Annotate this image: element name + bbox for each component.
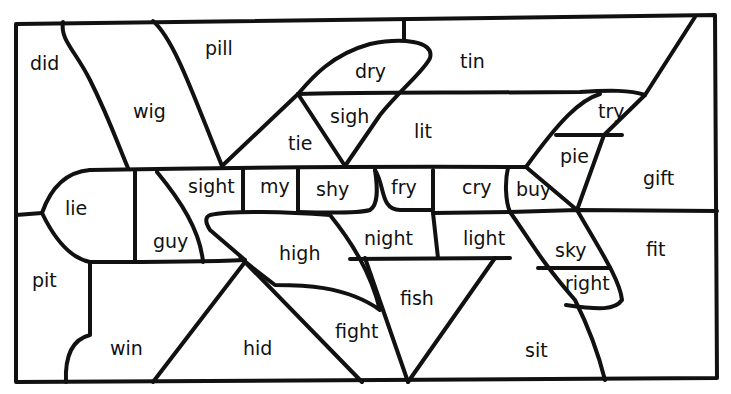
label-pill: pill (205, 37, 233, 59)
label-my: my (260, 175, 290, 197)
label-sigh: sigh (330, 105, 369, 127)
label-shy: shy (316, 178, 349, 200)
label-hid: hid (243, 337, 272, 359)
label-lit: lit (414, 120, 432, 142)
puzzle-canvas: did wig pill dry tin sigh tie lit try pi… (0, 0, 731, 394)
label-gift: gift (643, 167, 674, 189)
label-fight: fight (335, 320, 379, 342)
label-lie: lie (65, 197, 87, 219)
label-guy: guy (153, 230, 188, 252)
label-right: right (565, 272, 610, 294)
label-pit: pit (32, 269, 57, 291)
label-cry: cry (462, 176, 492, 198)
label-try: try (598, 100, 625, 122)
label-tin: tin (460, 50, 485, 72)
label-sight: sight (188, 175, 235, 197)
label-win: win (110, 337, 143, 359)
label-night: night (364, 227, 413, 249)
label-tie: tie (288, 132, 312, 154)
label-did: did (30, 52, 59, 74)
label-pie: pie (560, 145, 589, 167)
label-fish: fish (400, 287, 434, 309)
label-fry: fry (391, 176, 417, 198)
label-high: high (279, 242, 320, 264)
label-light: light (463, 227, 505, 249)
label-dry: dry (355, 60, 386, 82)
labels-layer: did wig pill dry tin sigh tie lit try pi… (0, 0, 731, 394)
label-fit: fit (646, 238, 665, 260)
label-sit: sit (525, 339, 548, 361)
label-buy: buy (516, 178, 551, 200)
label-wig: wig (133, 100, 166, 122)
label-sky: sky (555, 239, 586, 261)
